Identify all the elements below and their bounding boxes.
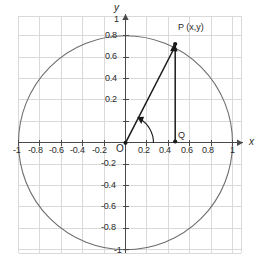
- ytick-label-neg08: -0.8: [101, 222, 116, 232]
- xtick-label-neg08: -0.8: [28, 145, 43, 155]
- xtick-label-1: 1: [230, 145, 235, 155]
- ytick-label-08: 0.8: [105, 30, 117, 40]
- point-p-label: P (x,y): [178, 22, 204, 32]
- ytick-label-neg02: -0.2: [101, 158, 116, 168]
- unit-circle-diagram: -1 -0.8 -0.6 -0.4 -0.2 0.2 0.4 0.6 0.8 1…: [0, 0, 264, 268]
- plot-canvas: [0, 0, 264, 268]
- xtick-label-06: 0.6: [181, 145, 193, 155]
- ytick-label-neg06: -0.6: [101, 201, 116, 211]
- xtick-label-neg1: -1: [13, 145, 21, 155]
- ytick-label-02: 0.2: [105, 94, 117, 104]
- ytick-label-1: 1: [114, 14, 119, 24]
- origin-label: O: [116, 143, 124, 154]
- ytick-label-neg1: -1: [114, 245, 122, 255]
- xtick-label-neg04: -0.4: [70, 145, 85, 155]
- y-axis-label: y: [114, 2, 119, 13]
- xtick-label-neg02: -0.2: [92, 145, 107, 155]
- ytick-label-neg04: -0.4: [101, 180, 116, 190]
- y-axis: [122, 14, 128, 253]
- ytick-label-06: 0.6: [105, 51, 117, 61]
- xtick-label-08: 0.8: [202, 145, 214, 155]
- xtick-label-02: 0.2: [138, 145, 150, 155]
- x-axis-label: x: [249, 136, 254, 147]
- xtick-label-04: 0.4: [159, 145, 171, 155]
- ytick-label-04: 0.4: [105, 73, 117, 83]
- point-q-label: Q: [178, 130, 185, 140]
- xtick-label-neg06: -0.6: [49, 145, 64, 155]
